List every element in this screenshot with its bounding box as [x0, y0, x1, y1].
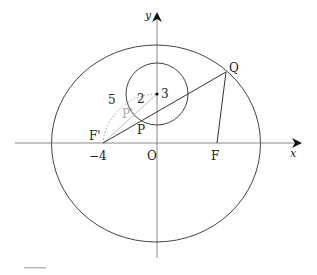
line-q-f [217, 72, 226, 143]
label-p-prime: P' [122, 107, 133, 121]
label-f-prime: F' [89, 129, 101, 143]
label-radius-2: 2 [137, 92, 145, 106]
diagram-canvas: y x Q 3 2 5 P' P F' −4 O F [0, 0, 317, 275]
label-f: F [211, 149, 219, 163]
label-center-3: 3 [161, 87, 169, 101]
x-axis-label: x [290, 147, 297, 160]
label-origin: O [147, 149, 157, 163]
circle-center-dot [155, 92, 158, 95]
label-distance-5: 5 [108, 93, 116, 107]
tick-label-neg4: −4 [89, 149, 107, 163]
y-axis-label: y [144, 9, 152, 22]
decorative-bar [24, 267, 46, 269]
label-q: Q [229, 61, 239, 75]
label-p: P [137, 123, 145, 137]
